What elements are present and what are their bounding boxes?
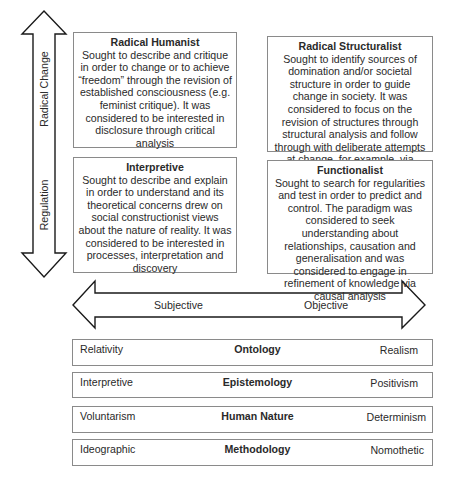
quadrant-description: Sought to describe and critique in order… xyxy=(77,49,233,150)
dimension-right-pole: Realism xyxy=(380,344,418,356)
dimension-row-epistemology: Interpretive Epistemology Positivism xyxy=(72,372,433,398)
dimension-name: Ontology xyxy=(73,343,432,355)
dimension-row-methodology: Ideographic Methodology Nomothetic xyxy=(72,439,433,466)
dimension-row-human-nature: Voluntarism Human Nature Determinism xyxy=(72,406,433,433)
dimension-right-pole: Positivism xyxy=(370,377,418,389)
quadrant-functionalist: Functionalist Sought to search for regul… xyxy=(267,160,433,274)
dimension-right-pole: Determinism xyxy=(367,411,426,423)
axis-label-regulation: Regulation xyxy=(38,165,50,245)
quadrant-interpretive: Interpretive Sought to describe and expl… xyxy=(73,157,237,273)
quadrant-title: Radical Humanist xyxy=(77,36,233,49)
dimension-right-pole: Nomothetic xyxy=(370,444,424,456)
axis-label-objective: Objective xyxy=(304,299,348,311)
quadrant-title: Functionalist xyxy=(271,164,429,177)
axis-label-radical-change: Radical Change xyxy=(38,49,50,129)
quadrant-title: Radical Structuralist xyxy=(271,40,429,53)
quadrant-description: Sought to search for regularities and te… xyxy=(271,177,429,303)
axis-label-subjective: Subjective xyxy=(154,299,203,311)
quadrant-title: Interpretive xyxy=(77,161,233,174)
quadrant-radical-structuralist: Radical Structuralist Sought to identify… xyxy=(267,36,433,152)
quadrant-radical-humanist: Radical Humanist Sought to describe and … xyxy=(73,32,237,148)
quadrant-description: Sought to describe and explain in order … xyxy=(77,174,233,275)
dimension-row-ontology: Relativity Ontology Realism xyxy=(72,339,433,366)
